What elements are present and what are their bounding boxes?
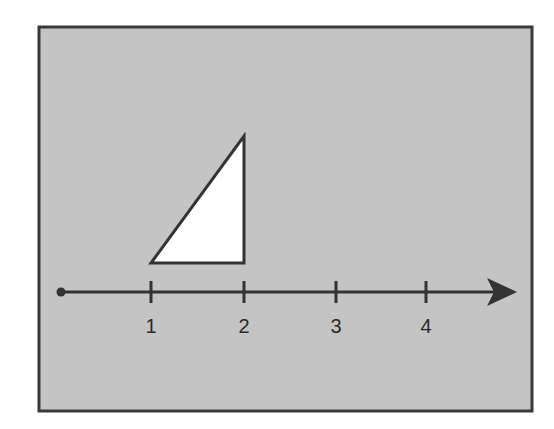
tick-label-1: 1 <box>145 315 156 337</box>
diagram-panel <box>39 27 532 411</box>
tick-label-3: 3 <box>330 315 341 337</box>
origin-dot-icon <box>57 288 66 297</box>
tick-label-2: 2 <box>238 315 249 337</box>
tick-label-4: 4 <box>420 315 431 337</box>
number-line-diagram: 1 2 3 4 <box>0 0 554 429</box>
